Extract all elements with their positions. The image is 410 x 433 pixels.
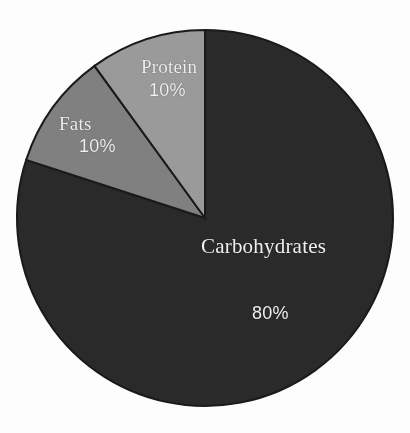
pie-chart-svg	[0, 0, 410, 433]
pie-chart-figure: Protein 10% Fats 10% Carbohydrates 80%	[0, 0, 410, 433]
